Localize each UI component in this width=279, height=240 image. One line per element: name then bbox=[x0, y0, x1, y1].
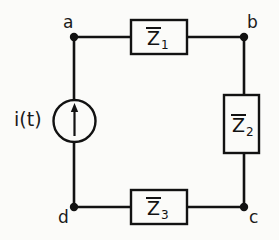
impedance-symbol-z2: Z bbox=[232, 113, 245, 135]
impedance-symbol-z3: Z bbox=[147, 196, 160, 218]
current-source-label: i(t) bbox=[14, 110, 42, 129]
impedance-subscript-z2: 2 bbox=[246, 126, 254, 138]
impedance-symbol-z1: Z bbox=[147, 26, 160, 48]
node-dot-c bbox=[240, 203, 248, 211]
impedance-label-z3: Z 3 bbox=[147, 196, 169, 218]
node-label-a: a bbox=[63, 14, 73, 31]
node-dot-a bbox=[70, 33, 78, 41]
impedance-subscript-z3: 3 bbox=[161, 209, 169, 221]
node-label-d: d bbox=[58, 209, 69, 226]
impedance-label-z2: Z 2 bbox=[232, 113, 254, 135]
impedance-label-z1: Z 1 bbox=[147, 26, 169, 48]
node-dot-d bbox=[70, 203, 78, 211]
node-label-c: c bbox=[249, 209, 258, 226]
circuit-diagram-canvas: a b c d i(t) Z 1 Z 2 Z 3 bbox=[0, 0, 279, 240]
node-dot-b bbox=[240, 33, 248, 41]
wire-group bbox=[74, 37, 244, 207]
impedance-subscript-z1: 1 bbox=[161, 39, 169, 51]
node-label-b: b bbox=[247, 14, 258, 31]
